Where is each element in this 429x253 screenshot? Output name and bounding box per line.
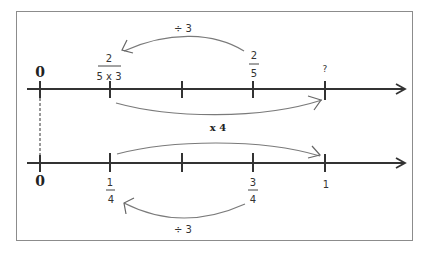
- top-question-label: ?: [323, 64, 328, 74]
- bottom-frac2-numerator: 3: [250, 177, 256, 188]
- multiply-label: x 4: [210, 122, 226, 133]
- divide-arc-top: [124, 36, 244, 51]
- arc-arrow-head-icon: [122, 40, 133, 53]
- bottom-zero-label: 0: [35, 173, 45, 189]
- top-frac1-denominator: 5 x 3: [97, 71, 122, 82]
- divide-arc-bottom: [124, 203, 245, 218]
- top-frac1-numerator: 2: [106, 53, 112, 64]
- bottom-frac2-denominator: 4: [250, 194, 256, 205]
- top-frac2-numerator: 2: [251, 50, 257, 61]
- bottom-number-line: [27, 153, 405, 172]
- bottom-one-label: 1: [323, 179, 329, 190]
- multiply-arc-top: [116, 100, 322, 115]
- top-frac2-denominator: 5: [251, 68, 257, 79]
- number-line-diagram: 0 2 5 x 3 2 5 ? ÷ 3 x 4 0 1 4 3 4 1 ÷ 3: [0, 0, 429, 253]
- multiply-arc-bottom: [117, 143, 320, 156]
- top-zero-label: 0: [35, 64, 45, 80]
- top-number-line: [27, 81, 405, 100]
- top-divide-label: ÷ 3: [174, 23, 192, 34]
- bottom-frac1-denominator: 4: [108, 194, 114, 205]
- bottom-divide-label: ÷ 3: [174, 224, 192, 235]
- arc-arrow-head-icon: [308, 146, 320, 158]
- bottom-frac1-numerator: 1: [107, 177, 113, 188]
